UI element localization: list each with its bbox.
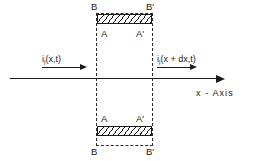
node-label-bottom-left-outer: B: [91, 147, 97, 157]
inflow-current-arrow-shaft: [42, 67, 82, 68]
node-label-top-left-outer: B: [91, 2, 97, 12]
arrow-right-icon: [216, 75, 225, 83]
hatched-conductor-band-bottom: [97, 126, 152, 136]
outflow-arrow-right-icon: [190, 64, 197, 70]
node-label-bottom-right-outer: B': [146, 147, 154, 157]
current-control-volume-figure: B B' A A' A A' B B' ii(x,t) ii(x + dx,t)…: [0, 0, 270, 161]
node-label-top-right-inner: A': [136, 29, 144, 39]
hatched-conductor-band-top: [97, 14, 152, 24]
inflow-arrow-right-icon: [80, 64, 87, 70]
node-label-top-right-outer: B': [146, 2, 154, 12]
x-axis-caption: x - Axis: [196, 88, 234, 98]
node-label-top-left-inner: A: [101, 29, 107, 39]
inflow-current-label: ii(x,t): [42, 55, 61, 66]
node-label-bottom-left-inner: A: [101, 114, 107, 124]
x-axis-line: [10, 78, 218, 79]
node-label-bottom-right-inner: A': [136, 114, 144, 124]
outflow-current-arguments: (x + dx,t): [160, 54, 195, 64]
inflow-current-arguments: (x,t): [45, 54, 61, 64]
outflow-current-arrow-shaft: [157, 67, 192, 68]
